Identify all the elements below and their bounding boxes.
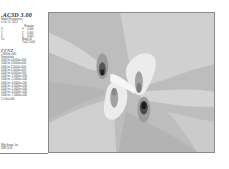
- contour-plot-viewport[interactable]: [48, 12, 215, 153]
- view-row: Trig 12.000: [0, 41, 48, 44]
- legend-panel: .AC3D 3.00 Model Perspective e Oct 11, 2…: [0, 12, 48, 154]
- contour-plot: [49, 13, 214, 152]
- contour-level: 1.2 thin 000: [1, 98, 48, 101]
- view-row-label: [1, 41, 10, 44]
- version-label: SWI 1104: [1, 147, 19, 150]
- contour-levels: 1000 hz 4.0000e+000 1000 hz 3.0000e+000 …: [0, 59, 48, 101]
- view-row-value: 12.000: [27, 41, 37, 44]
- date-label: e Oct 11, 2012: [1, 21, 48, 24]
- legend-footer: Mfg Group, Inc. SWI 1104: [1, 144, 19, 150]
